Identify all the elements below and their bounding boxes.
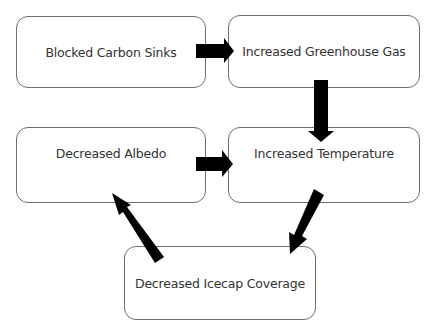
arrow-up-left-icon	[112, 193, 164, 263]
arrow-down-left-icon	[289, 189, 324, 254]
arrow-right-icon	[196, 38, 234, 63]
arrows-layer	[0, 0, 432, 334]
arrow-right-icon	[196, 150, 233, 177]
arrow-down-icon	[308, 80, 334, 142]
